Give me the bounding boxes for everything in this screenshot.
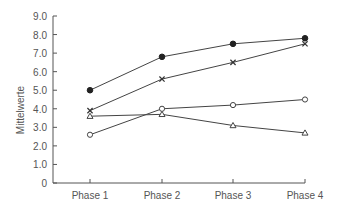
y-tick-label: 1.0: [33, 159, 47, 170]
y-tick-label: 6.0: [33, 67, 47, 78]
y-tick-label: 9.0: [33, 11, 47, 22]
y-tick-label: 8.0: [33, 30, 47, 41]
series-open-circle: [87, 97, 307, 137]
line-chart: 01.02.03.04.05.06.07.08.09.0 Phase 1Phas…: [0, 0, 347, 216]
series-cross: [87, 41, 307, 113]
series-triangle: [87, 111, 308, 135]
y-tick-label: 5.0: [33, 85, 47, 96]
data-point-marker: [230, 41, 236, 47]
data-point-marker: [302, 35, 308, 41]
data-point-marker: [230, 102, 235, 107]
data-point-marker: [87, 87, 93, 93]
x-axis: Phase 1Phase 2Phase 3Phase 4: [53, 179, 324, 201]
series-group: [87, 35, 308, 137]
y-axis: 01.02.03.04.05.06.07.08.09.0: [33, 11, 57, 189]
data-point-marker: [159, 54, 165, 60]
series-line: [90, 44, 305, 111]
y-tick-label: 4.0: [33, 104, 47, 115]
y-tick-label: 7.0: [33, 48, 47, 59]
x-tick-label: Phase 4: [287, 190, 324, 201]
y-tick-label: 3.0: [33, 122, 47, 133]
x-tick-label: Phase 1: [72, 190, 109, 201]
series-filled-circle: [87, 35, 308, 93]
series-line: [90, 38, 305, 90]
y-tick-label: 2.0: [33, 141, 47, 152]
x-tick-label: Phase 2: [144, 190, 181, 201]
x-tick-label: Phase 3: [215, 190, 252, 201]
data-point-marker: [302, 97, 307, 102]
y-axis-title: Mittelwerte: [15, 85, 26, 134]
y-tick-label: 0: [41, 178, 47, 189]
data-point-marker: [87, 132, 92, 137]
